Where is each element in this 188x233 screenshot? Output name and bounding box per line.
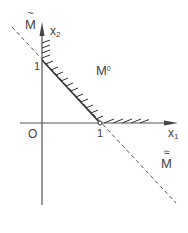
x-axis-label-sub: 1	[174, 132, 178, 141]
y-axis-label: x2	[50, 25, 60, 39]
label-m: M	[25, 18, 36, 31]
diagonal-hatching	[46, 61, 103, 119]
feasible-set-boundary	[42, 60, 100, 123]
dashed-boundary-line	[12, 27, 176, 203]
label-m-double-tilde: ≈ M	[160, 148, 173, 172]
y-unit-tick-label: 1	[34, 61, 40, 72]
origin-label: O	[28, 128, 37, 140]
feasible-set-label-main: M	[96, 63, 107, 78]
y-axis-hatching	[42, 40, 50, 58]
y-axis-label-sub: 2	[56, 30, 60, 39]
diagram-canvas	[0, 0, 188, 233]
label-m-tilde: ~ M	[24, 10, 37, 34]
y-axis-arrow-icon	[40, 22, 45, 36]
x-unit-tick-label: 1	[97, 128, 103, 139]
x-axis-label: x1	[168, 127, 178, 141]
feasible-set-label-sup: 0	[107, 65, 111, 72]
vertex-point	[98, 121, 102, 125]
feasible-set-label: M0	[96, 64, 111, 77]
x-axis-arrow-icon	[164, 121, 178, 126]
label-m-lower: M	[161, 157, 172, 170]
